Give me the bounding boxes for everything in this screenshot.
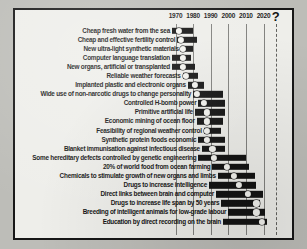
row-label: Education by direct recording on the bra… (103, 218, 221, 224)
row-label: Breeding of intelligent animals for low-… (83, 209, 227, 215)
chart-panel: 197019801990200020102020? Cheap fresh wa… (13, 8, 294, 240)
forecast-row: Wide use of non-narcotic drugs to change… (15, 90, 292, 99)
axis-tick-1970: 1970 (169, 12, 183, 19)
row-label: Computer language translation (83, 55, 170, 61)
forecast-row: Reliable weather forecasts (15, 71, 292, 80)
row-label: Drugs to increase intelligence (124, 182, 207, 188)
forecast-row: New ultra-light synthetic materials (15, 44, 292, 53)
forecast-row: Computer language translation (15, 53, 292, 62)
row-label: Wide use of non-narcotic drugs to change… (40, 91, 191, 97)
forecast-row: Education by direct recording on the bra… (15, 217, 292, 226)
row-label: New ultra-light synthetic materials (83, 46, 178, 52)
row-label: Some hereditary defects controlled by ge… (32, 155, 196, 161)
row-label: Feasibility of regional weather control (96, 127, 201, 133)
forecast-row: Blanket immunisation against infectious … (15, 144, 292, 153)
row-label: Controlled H-bomb power (124, 100, 197, 106)
forecast-row: Controlled H-bomb power (15, 99, 292, 108)
forecast-row: Chemicals to stimulate growth of new org… (15, 172, 292, 181)
row-label: Cheap fresh water from the sea (82, 27, 170, 33)
row-label: Reliable weather forecasts (106, 73, 180, 79)
row-label: Direct links between brain and computer (101, 191, 214, 197)
row-label: Cheap and effective fertility control (78, 36, 176, 42)
forecast-row: Economic mining of ocean floor (15, 117, 292, 126)
row-label: 20% of world food from ocean farming (103, 164, 210, 170)
row-label: Blanket immunisation against infectious … (64, 146, 200, 152)
forecast-row: Direct links between brain and computer (15, 190, 292, 199)
axis-question-mark: ? (272, 10, 280, 23)
forecast-row: Cheap and effective fertility control (15, 35, 292, 44)
axis-tick-1980: 1980 (186, 12, 200, 19)
row-label: Synthetic protein foods economic (101, 136, 196, 142)
axis-tick-1990: 1990 (204, 12, 218, 19)
forecast-row: Cheap fresh water from the sea (15, 26, 292, 35)
range-bar (198, 136, 224, 142)
row-label: Implanted plastic and electronic organs (75, 82, 186, 88)
forecast-row: 20% of world food from ocean farming (15, 162, 292, 171)
axis-tick-2020: 2020 (257, 12, 271, 19)
range-bar (212, 164, 249, 170)
range-bar (198, 155, 246, 161)
forecast-row: Drugs to increase intelligence (15, 181, 292, 190)
range-bar (216, 191, 264, 197)
row-label: Primitive artificial life (135, 109, 193, 115)
forecast-rows: Cheap fresh water from the seaCheap and … (15, 26, 292, 226)
forecast-row: Breeding of intelligent animals for low-… (15, 208, 292, 217)
forecast-row: New organs, artificial or transplanted (15, 62, 292, 71)
forecast-row: Drugs to increase life span by 50 years (15, 199, 292, 208)
row-label: Chemicals to stimulate growth of new org… (60, 173, 216, 179)
forecast-row: Primitive artificial life (15, 108, 292, 117)
forecast-row: Feasibility of regional weather control (15, 126, 292, 135)
forecast-row: Implanted plastic and electronic organs (15, 81, 292, 90)
row-label: New organs, artificial or transplanted (67, 64, 170, 70)
year-axis: 197019801990200020102020? (15, 12, 292, 26)
forecast-row: Some hereditary defects controlled by ge… (15, 153, 292, 162)
forecast-row: Synthetic protein foods economic (15, 135, 292, 144)
axis-tick-2010: 2010 (239, 12, 253, 19)
chart-plot-area: 197019801990200020102020? Cheap fresh wa… (15, 10, 292, 238)
row-label: Economic mining of ocean floor (105, 118, 195, 124)
range-bar (209, 182, 257, 188)
screenshot-root: 197019801990200020102020? Cheap fresh wa… (0, 0, 307, 249)
row-label: Drugs to increase life span by 50 years (111, 200, 220, 206)
range-bar (228, 209, 265, 215)
axis-tick-2000: 2000 (221, 12, 235, 19)
